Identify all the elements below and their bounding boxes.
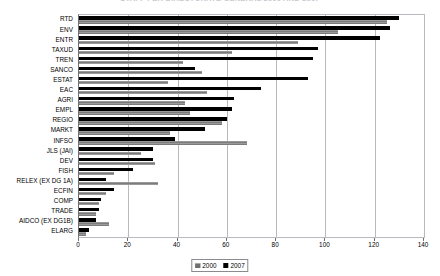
bar-group: [79, 86, 424, 96]
bar-2007: [79, 67, 195, 70]
bar-group: [79, 106, 424, 116]
category-label: ENV: [60, 26, 73, 33]
bar-2007: [79, 117, 227, 120]
bar-group: [79, 25, 424, 35]
bar-2000: [79, 131, 170, 134]
bar-2000: [79, 172, 114, 175]
bar-2007: [79, 57, 313, 60]
axis-tick-label: 100: [319, 241, 330, 249]
bar-2000: [79, 81, 168, 84]
bar-2007: [79, 137, 175, 140]
axis-tick-label: 20: [124, 241, 131, 249]
bar-2007: [79, 198, 101, 201]
category-label: FISH: [58, 167, 73, 174]
gridline: [424, 15, 425, 237]
category-label: AGRI: [57, 96, 73, 103]
category-label: SANCO: [50, 66, 73, 73]
bar-2000: [79, 212, 96, 215]
category-label: ENTR: [56, 36, 73, 43]
bar-2000: [79, 51, 232, 54]
legend-label: 2007: [231, 262, 245, 269]
bar-2007: [79, 47, 318, 50]
value-axis: 020406080100120140: [78, 238, 425, 252]
plot-area: [78, 14, 425, 238]
axis-tick-label: 40: [173, 241, 180, 249]
bar-2007: [79, 127, 205, 130]
bar-2000: [79, 71, 202, 74]
bar-group: [79, 156, 424, 166]
bar-2007: [79, 87, 261, 90]
bar-2007: [79, 77, 308, 80]
bar-2007: [79, 107, 232, 110]
legend-item-2000[interactable]: 2000: [195, 262, 216, 269]
bar-2007: [79, 218, 96, 221]
bar-2007: [79, 158, 153, 161]
bar-2000: [79, 232, 86, 235]
category-label: TREN: [56, 56, 73, 63]
bar-group: [79, 187, 424, 197]
category-label: ECFIN: [54, 187, 73, 194]
bar-2000: [79, 20, 387, 23]
bar-2007: [79, 147, 153, 150]
bar-group: [79, 126, 424, 136]
bar-2007: [79, 178, 106, 181]
bar-chart: STAFF PER DIRECTORATE GENERAL 2000 AND 2…: [0, 0, 440, 276]
bar-2000: [79, 101, 185, 104]
bar-2000: [79, 222, 109, 225]
bar-group: [79, 65, 424, 75]
bar-group: [79, 35, 424, 45]
bar-group: [79, 176, 424, 186]
bar-2000: [79, 111, 190, 114]
bar-2000: [79, 162, 155, 165]
legend-swatch-icon: [224, 263, 229, 268]
bar-2000: [79, 61, 183, 64]
category-label: DEV: [60, 157, 73, 164]
bar-2007: [79, 16, 399, 19]
bar-group: [79, 207, 424, 217]
legend-label: 2000: [202, 262, 216, 269]
bar-group: [79, 136, 424, 146]
category-label: REGIO: [52, 116, 73, 123]
bar-2000: [79, 192, 106, 195]
bar-2000: [79, 202, 99, 205]
bar-group: [79, 227, 424, 237]
axis-tick-label: 140: [418, 241, 429, 249]
bar-2000: [79, 121, 222, 124]
bar-2000: [79, 41, 298, 44]
bar-2000: [79, 152, 141, 155]
category-label: INFSO: [53, 137, 73, 144]
category-label: EAC: [60, 86, 73, 93]
category-label: ELARG: [51, 227, 73, 234]
bar-2000: [79, 182, 158, 185]
category-label: AIDCO (EX DG1B): [19, 217, 73, 224]
bar-2007: [79, 168, 133, 171]
category-label: TAXUD: [52, 46, 73, 53]
bar-2007: [79, 36, 380, 39]
bar-2000: [79, 141, 247, 144]
category-label: TRADE: [51, 207, 73, 214]
bar-2007: [79, 228, 89, 231]
bar-2007: [79, 188, 114, 191]
bar-2007: [79, 97, 234, 100]
bar-2000: [79, 30, 338, 33]
legend-item-2007[interactable]: 2007: [224, 262, 245, 269]
bar-2007: [79, 26, 390, 29]
bar-2000: [79, 91, 207, 94]
bar-group: [79, 45, 424, 55]
category-label: RTD: [60, 15, 73, 22]
bar-2007: [79, 208, 99, 211]
bar-group: [79, 146, 424, 156]
bar-group: [79, 55, 424, 65]
axis-tick-label: 60: [222, 241, 229, 249]
category-label: MARKT: [51, 126, 73, 133]
category-label: ESTAT: [53, 76, 73, 83]
category-label: JLS (JAI): [47, 147, 73, 154]
bar-group: [79, 15, 424, 25]
chart-title: STAFF PER DIRECTORATE GENERAL 2000 AND 2…: [0, 0, 440, 3]
axis-tick-label: 80: [272, 241, 279, 249]
category-label: RELEX (EX DG 1A): [17, 177, 73, 184]
bar-group: [79, 96, 424, 106]
axis-tick-label: 0: [76, 241, 80, 249]
category-axis: RTDENVENTRTAXUDTRENSANCOESTATEACAGRIEMPL…: [0, 14, 76, 238]
bar-group: [79, 166, 424, 176]
